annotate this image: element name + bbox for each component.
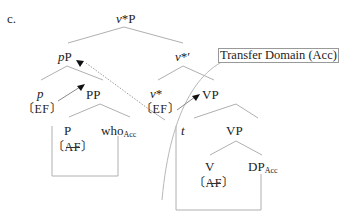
example-label: c. xyxy=(7,12,16,26)
node-trace-t: t xyxy=(181,124,185,138)
feature-EF-vstar: 〔EF〕 xyxy=(140,102,180,116)
transfer-domain-label: Transfer Domain (Acc) xyxy=(218,48,339,63)
node-DP-acc: DPAcc xyxy=(248,160,278,178)
node-p: p xyxy=(37,87,44,101)
feature-EF-p: 〔EF〕 xyxy=(22,102,62,116)
arrowhead-pP xyxy=(76,60,84,67)
node-pP: pP xyxy=(58,50,72,64)
node-vstar-bar: v*′ xyxy=(175,50,190,64)
feature-AF-P: 〔AF〕 xyxy=(52,140,93,154)
node-root-vstarP: v*P xyxy=(116,12,136,26)
arrowhead-vp xyxy=(192,94,200,101)
node-V: V xyxy=(205,160,214,174)
feature-AF-V: 〔AF〕 xyxy=(193,176,234,190)
node-VP-upper: VP xyxy=(202,88,219,102)
node-PP: PP xyxy=(86,88,100,102)
node-P: P xyxy=(64,124,71,138)
arrowhead-pp xyxy=(77,84,85,91)
node-vstar: v* xyxy=(150,87,162,101)
node-VP-lower: VP xyxy=(226,124,243,138)
node-who-acc: whoAcc xyxy=(101,124,136,142)
